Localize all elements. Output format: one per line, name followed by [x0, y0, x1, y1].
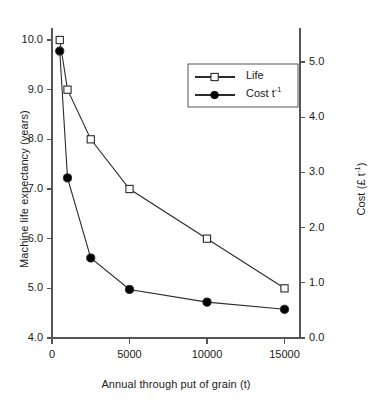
x-axis-tick-label: 5000: [90, 348, 170, 360]
y-axis-right-tick-label: 5.0: [309, 55, 324, 67]
legend-entry-label: Life: [246, 69, 264, 81]
y-axis-left-tick-label: 5.0: [0, 281, 43, 293]
y-axis-right-title-main: Cost (£ t: [355, 173, 367, 215]
legend-entry-superscript: -1: [275, 85, 282, 94]
y-axis-right-tick-label: 1.0: [309, 276, 324, 288]
y-axis-left-tick-label: 6.0: [0, 232, 43, 244]
x-axis-tick-label: 0: [12, 348, 92, 360]
data-point-marker-open-square: [126, 185, 133, 192]
data-point-marker-filled-circle: [280, 305, 288, 313]
y-axis-right-title-close: ): [355, 162, 367, 166]
y-axis-right-tick-label: 3.0: [309, 165, 324, 177]
y-axis-right-tick-label: 4.0: [309, 110, 324, 122]
legend-frame: [188, 64, 298, 107]
x-axis-tick-label: 15000: [245, 348, 325, 360]
chart-figure: Machine life expectancy (years) Cost (£ …: [0, 0, 370, 406]
data-point-marker-open-square: [56, 36, 63, 43]
legend-box: [188, 64, 298, 107]
data-point-marker-open-square: [203, 235, 210, 242]
data-point-marker-open-square: [87, 136, 94, 143]
data-point-marker-filled-circle: [87, 254, 95, 262]
data-point-marker-open-square: [281, 285, 288, 292]
legend-entry-label: Cost t-1: [246, 87, 281, 99]
legend-marker-open-square: [211, 73, 218, 80]
data-point-marker-filled-circle: [125, 285, 133, 293]
x-axis-title: Annual through put of grain (t): [101, 378, 250, 390]
y-axis-right-title-superscript: -1: [353, 166, 362, 173]
y-axis-right-title: Cost (£ t-1): [355, 162, 367, 215]
data-point-marker-filled-circle: [203, 298, 211, 306]
y-axis-left-tick-label: 8.0: [0, 132, 43, 144]
y-axis-right-tick-label: 2.0: [309, 221, 324, 233]
legend-marker-filled-circle: [211, 91, 219, 99]
y-axis-left-tick-label: 9.0: [0, 83, 43, 95]
y-axis-right-tick-label: 0.0: [309, 331, 324, 343]
data-point-marker-filled-circle: [63, 174, 71, 182]
y-axis-left-tick-label: 10.0: [0, 33, 43, 45]
y-axis-left-tick-label: 7.0: [0, 182, 43, 194]
legend-entry-text: Cost t: [246, 87, 275, 99]
data-point-marker-open-square: [64, 86, 71, 93]
y-axis-left-tick-label: 4.0: [0, 331, 43, 343]
x-axis-tick-label: 10000: [167, 348, 247, 360]
data-point-marker-filled-circle: [56, 47, 64, 55]
